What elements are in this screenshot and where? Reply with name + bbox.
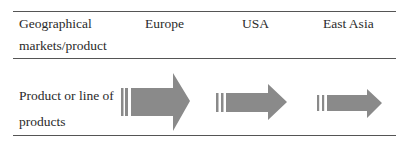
row-label-product: Product or line of products	[19, 83, 139, 135]
table-bottom-rule	[13, 135, 396, 136]
header-europe: Europe	[145, 13, 184, 35]
header-row-label: Geographical markets/product	[19, 13, 139, 57]
table-header-rule	[13, 58, 396, 59]
table-top-rule	[13, 11, 396, 12]
header-east-asia: East Asia	[323, 13, 374, 35]
header-usa: USA	[242, 13, 269, 35]
